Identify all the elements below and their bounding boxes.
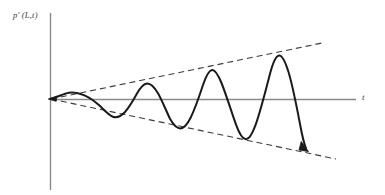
origin-arrowhead-icon bbox=[48, 96, 57, 101]
pressure-oscillation-curve bbox=[50, 55, 306, 148]
upper-envelope-line bbox=[51, 43, 322, 99]
figure-container: p′ (L,t) t bbox=[0, 0, 385, 195]
x-axis-label: t bbox=[362, 92, 365, 102]
y-axis-label: p′ (L,t) bbox=[13, 10, 38, 20]
lower-envelope-line bbox=[51, 99, 336, 159]
oscillation-plot bbox=[0, 0, 385, 195]
